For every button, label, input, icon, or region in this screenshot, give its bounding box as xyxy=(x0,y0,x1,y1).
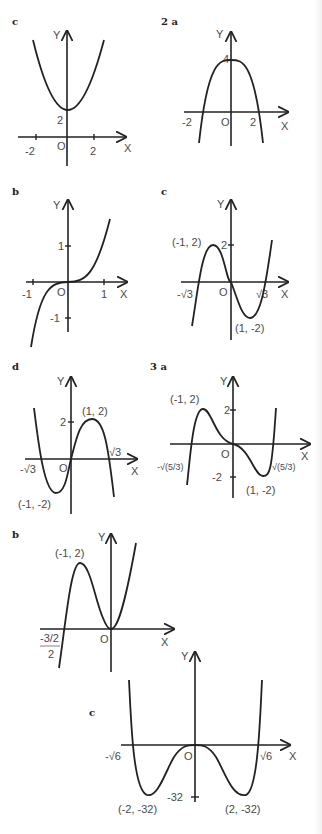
origin-label: O xyxy=(219,286,228,298)
graph-sheet: c Y X O -2 2 2 2 a Y X O -2 2 4 b Y X O xyxy=(0,0,322,834)
x-tick-label: -√(5/3) xyxy=(157,462,183,472)
x-tick-denominator: 2 xyxy=(48,648,54,660)
graph-2a: 2 a Y X O -2 2 4 xyxy=(161,16,289,146)
x-tick-label: -3/2 xyxy=(40,632,59,644)
origin-label: O xyxy=(59,462,68,474)
point-annotation: (-1, -2) xyxy=(18,498,51,510)
y-tick-label: -32 xyxy=(167,791,183,803)
graph-2c: c Y X O 2 -√3 √3 (-1, 2) (1, -2) xyxy=(161,186,289,340)
graph-label: c xyxy=(89,707,95,718)
x-tick-label: √3 xyxy=(109,446,121,458)
graph-label: b xyxy=(12,186,19,197)
x-tick-label: -1 xyxy=(22,288,32,300)
origin-label: O xyxy=(221,448,230,460)
y-axis-label: Y xyxy=(98,531,106,543)
graph-label: 2 a xyxy=(161,16,178,27)
x-axis-label: X xyxy=(161,636,169,648)
x-axis-label: X xyxy=(301,450,309,462)
point-annotation: (1, 2) xyxy=(82,405,108,417)
graph-2b: b Y X O -1 1 1 -1 xyxy=(12,186,128,347)
point-annotation: (2, -32) xyxy=(225,803,260,815)
y-axis-label: Y xyxy=(53,199,61,211)
point-annotation: (-1, 2) xyxy=(172,236,201,248)
curve xyxy=(59,543,136,668)
y-tick-label: 2 xyxy=(57,114,63,126)
x-tick-label: -√3 xyxy=(20,463,36,475)
y-axis-label: Y xyxy=(216,28,224,40)
origin-label: O xyxy=(184,750,193,762)
x-axis-label: X xyxy=(289,750,297,762)
x-tick-label: √(5/3) xyxy=(272,462,295,472)
origin-label: O xyxy=(57,286,66,298)
y-tick-label: -2 xyxy=(212,471,222,483)
x-tick-label: -2 xyxy=(182,116,192,128)
origin-label: O xyxy=(57,140,66,152)
x-tick-label: -2 xyxy=(25,145,35,157)
point-annotation: (-2, -32) xyxy=(118,803,157,815)
y-axis-label: Y xyxy=(53,29,61,41)
point-annotation: (1, -2) xyxy=(235,322,264,334)
x-tick-label: √6 xyxy=(260,750,272,762)
y-tick-label: -1 xyxy=(50,312,60,324)
graph-3a: 3 a Y X O 2 -2 -√(5/3) √(5/3) (-1, 2) (1… xyxy=(150,361,310,498)
x-tick-label: -√6 xyxy=(105,750,121,762)
y-tick-label: 2 xyxy=(221,239,227,251)
graph-label: c xyxy=(161,186,167,197)
graph-label: 3 a xyxy=(150,361,167,372)
x-tick-label: 2 xyxy=(250,116,256,128)
x-tick-label: 2 xyxy=(90,145,96,157)
graph-label: d xyxy=(12,361,19,372)
graph-3b: b Y X O -3/2 2 (-1, 2) xyxy=(12,529,174,672)
y-tick-label: 4 xyxy=(223,53,229,65)
x-axis-label: X xyxy=(124,142,132,154)
y-tick-label: 2 xyxy=(224,404,230,416)
graph-1c: c Y X O -2 2 2 xyxy=(12,16,132,166)
x-tick-label: 1 xyxy=(101,288,107,300)
point-annotation: (-1, 2) xyxy=(170,393,199,405)
curve xyxy=(33,40,104,110)
y-tick-label: 2 xyxy=(60,416,66,428)
graph-label: b xyxy=(12,529,19,540)
point-annotation: (-1, 2) xyxy=(55,547,84,559)
point-annotation: (1, -2) xyxy=(246,484,275,496)
y-tick-label: 1 xyxy=(58,240,64,252)
curve xyxy=(187,408,276,485)
graph-2d: d Y X O 2 -√3 √3 (1, 2) (-1, -2) xyxy=(12,361,139,514)
y-axis-label: Y xyxy=(217,198,225,210)
x-axis-label: X xyxy=(120,288,128,300)
graph-3c: c Y X O -32 -√6 √6 (-2, -32) (2, -32) xyxy=(89,650,297,815)
x-axis-label: X xyxy=(131,465,139,477)
graph-label: c xyxy=(12,16,18,27)
x-axis-label: X xyxy=(281,288,289,300)
x-axis-label: X xyxy=(281,120,289,132)
curve xyxy=(192,240,272,326)
y-axis-label: Y xyxy=(181,650,189,662)
curve xyxy=(31,219,110,347)
y-axis-label: Y xyxy=(57,375,65,387)
origin-label: O xyxy=(221,116,230,128)
x-tick-label: -√3 xyxy=(177,288,193,300)
origin-label: O xyxy=(100,633,109,645)
y-axis-label: Y xyxy=(220,375,228,387)
